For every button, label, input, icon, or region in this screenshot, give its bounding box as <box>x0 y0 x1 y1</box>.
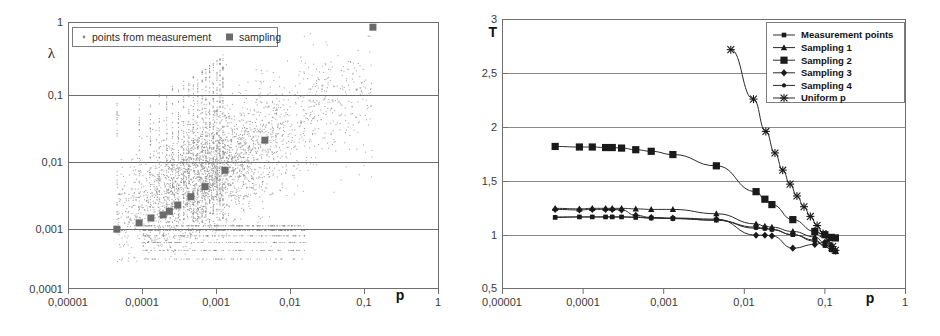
right-y-ticks <box>503 20 509 289</box>
right-y-axis-labels: 3 2,5 2 1,5 1 0,5 <box>482 13 497 294</box>
left-y-axis-title: λ <box>48 45 56 61</box>
left-chart-svg: 1 0,1 0,01 0,001 0,0001 λ <box>0 0 470 336</box>
left-legend-label-sampling: sampling <box>239 31 281 43</box>
right-legend-label: Sampling 3 <box>801 67 852 78</box>
series-markers-sampling-1 <box>552 205 839 254</box>
left-xtick-1: 1 <box>435 296 441 308</box>
left-xtick-0.00001: 0,00001 <box>48 296 88 308</box>
right-xtick-1: 1 <box>902 296 908 308</box>
right-x-ticks <box>503 289 906 295</box>
right-ytick-1: 1 <box>491 229 497 241</box>
right-x-axis-title: p <box>866 290 875 306</box>
right-legend-label: Sampling 1 <box>801 42 852 53</box>
left-xtick-0.1: 0,1 <box>356 296 371 308</box>
left-gridlines <box>69 96 439 230</box>
right-legend: Measurement pointsSampling 1Sampling 2Sa… <box>767 23 905 104</box>
right-x-axis-labels: 0,00001 0,0001 0,001 0,01 0,1 1 <box>482 296 908 308</box>
right-xtick-0.001: 0,001 <box>650 296 678 308</box>
series-markers-sampling-2 <box>552 143 839 242</box>
right-ytick-2: 2 <box>491 121 497 133</box>
left-scatter-points <box>117 33 373 262</box>
left-y-ticks <box>69 23 75 289</box>
left-y-axis-labels: 1 0,1 0,01 0,001 0,0001 <box>29 16 63 295</box>
right-xtick-0.00001: 0,00001 <box>482 296 522 308</box>
right-legend-label: Sampling 4 <box>801 80 852 91</box>
left-xtick-0.001: 0,001 <box>202 296 230 308</box>
legend-dot-icon <box>83 36 86 39</box>
figure-two-charts: 1 0,1 0,01 0,001 0,0001 λ <box>0 0 940 336</box>
right-chart-svg: 3 2,5 2 1,5 1 0,5 T <box>470 0 940 336</box>
left-ytick-1: 1 <box>57 16 63 28</box>
right-ytick-1.5: 1,5 <box>482 175 497 187</box>
chart-panel-right: 3 2,5 2 1,5 1 0,5 T <box>470 0 940 336</box>
right-legend-label: Sampling 2 <box>801 55 852 66</box>
right-xtick-0.01: 0,01 <box>733 296 754 308</box>
left-xtick-0.0001: 0,0001 <box>125 296 159 308</box>
series-line-sampling-2 <box>555 146 835 237</box>
left-plot-frame <box>69 23 439 289</box>
left-legend-label-measurement: points from measurement <box>92 31 211 43</box>
chart-panel-left: 1 0,1 0,01 0,001 0,0001 λ <box>0 0 470 336</box>
left-x-axis-labels: 0,00001 0,0001 0,001 0,01 0,1 1 <box>48 296 441 308</box>
right-ytick-0.5: 0,5 <box>482 282 497 294</box>
left-legend: points from measurement sampling <box>73 28 282 47</box>
right-y-axis-title: T <box>488 24 497 40</box>
right-legend-item-uniform-p: Uniform p <box>773 92 846 103</box>
right-legend-label: Measurement points <box>801 29 893 40</box>
left-xtick-0.01: 0,01 <box>279 296 300 308</box>
right-legend-label: Uniform p <box>801 92 846 103</box>
right-xtick-0.0001: 0,0001 <box>566 296 600 308</box>
right-ytick-2.5: 2,5 <box>482 67 497 79</box>
right-xtick-0.1: 0,1 <box>817 296 832 308</box>
left-x-ticks <box>69 289 439 295</box>
series-markers-sampling-3 <box>552 206 839 255</box>
legend-square-icon <box>226 34 233 41</box>
left-ytick-0.01: 0,01 <box>42 156 63 168</box>
left-ytick-0.1: 0,1 <box>48 89 63 101</box>
left-x-axis-title: p <box>396 287 405 303</box>
left-ytick-0.0001: 0,0001 <box>29 283 63 295</box>
left-ytick-0.001: 0,001 <box>35 223 63 235</box>
